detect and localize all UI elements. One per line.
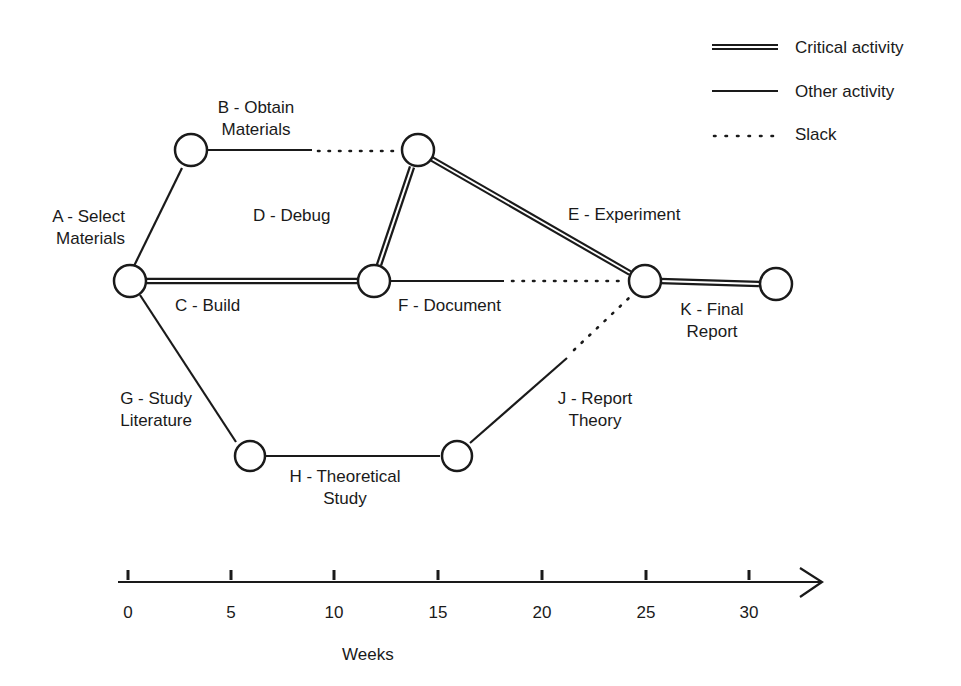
axis-tick-label: 10 bbox=[314, 603, 354, 623]
axis-tick-label: 5 bbox=[211, 603, 251, 623]
legend-slack-label: Slack bbox=[795, 124, 837, 146]
activity-g-label: G - Study Literature bbox=[120, 388, 192, 432]
activity-d-critical-line bbox=[379, 167, 412, 265]
activity-k-label: K - Final Report bbox=[662, 299, 762, 343]
node-start bbox=[114, 265, 146, 297]
activity-k-critical-line bbox=[660, 281, 759, 284]
node-finish bbox=[760, 268, 792, 300]
activity-j-label: J - Report Theory bbox=[545, 388, 645, 432]
legend-critical-label: Critical activity bbox=[795, 37, 904, 59]
activity-b-label: B - Obtain Materials bbox=[196, 97, 316, 141]
axis-tick-label: 30 bbox=[729, 603, 769, 623]
axis-tick-label: 0 bbox=[108, 603, 148, 623]
activity-a-line bbox=[134, 168, 182, 266]
node-d-end bbox=[402, 134, 434, 166]
activity-e-label: E - Experiment bbox=[568, 204, 680, 226]
axis-tick-label: 15 bbox=[418, 603, 458, 623]
node-h-end bbox=[442, 441, 472, 471]
node-merge bbox=[629, 265, 661, 297]
activity-a-label: A - Select Materials bbox=[52, 206, 125, 250]
axis-title: Weeks bbox=[342, 645, 394, 665]
axis-tick-label: 20 bbox=[522, 603, 562, 623]
activity-c-label: C - Build bbox=[175, 295, 240, 317]
activity-h-label: H - Theoretical Study bbox=[250, 466, 440, 510]
legend-other-label: Other activity bbox=[795, 81, 894, 103]
activity-f-label: F - Document bbox=[398, 295, 501, 317]
axis-tick-label: 25 bbox=[626, 603, 666, 623]
time-axis bbox=[118, 568, 822, 597]
activity-d-label: D - Debug bbox=[253, 205, 330, 227]
activity-j-slack bbox=[574, 297, 630, 350]
node-c-end bbox=[358, 265, 390, 297]
